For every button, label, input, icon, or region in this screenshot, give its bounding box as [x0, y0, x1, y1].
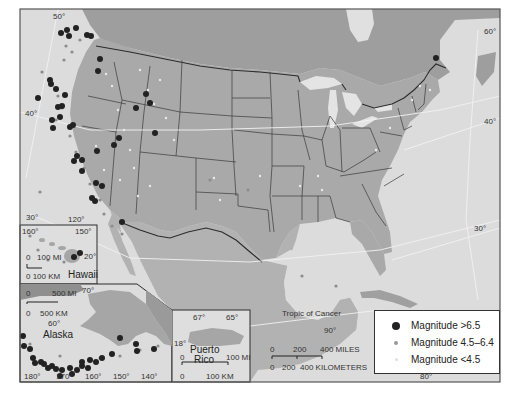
medium-dot-icon [389, 341, 403, 345]
pr-lon-65: 65° [226, 314, 238, 322]
lat-label-40-west: 40° [25, 110, 37, 118]
hawaii-scale-km: 0 100 KM [26, 273, 60, 281]
hawaii-scale-mi: 0 100 MI [26, 254, 62, 262]
hawaii-name: Hawaii [68, 270, 98, 280]
lon-label-80: 80° [420, 373, 432, 381]
alaska-scale-km: 500 KM [40, 310, 68, 318]
scale-km-200: 200 [282, 364, 295, 372]
lat-label-60-east: 60° [484, 28, 496, 36]
scale-miles-200: 200 [293, 346, 306, 354]
legend-label-large: Magnitude >6.5 [411, 320, 480, 331]
pr-lon-67: 67° [193, 314, 205, 322]
hawaii-lon-150: 150° [75, 228, 92, 236]
alaska-lon-150: 150° [113, 373, 130, 381]
scale-miles-400: 400 MILES [320, 346, 360, 354]
pr-scale-km: 100 KM [206, 373, 234, 381]
alaska-lat-70: 70° [82, 287, 94, 295]
pr-scale-mi-0: 0 [180, 354, 184, 362]
alaska-scale-km-0: 0 [26, 310, 30, 318]
alaska-lon-140: 140° [141, 373, 158, 381]
alaska-scale-mi: 500 MI [52, 290, 76, 298]
legend-label-medium: Magnitude 4.5–6.4 [411, 337, 494, 348]
lat-label-30-east: 30° [474, 225, 486, 233]
legend-item-large: Magnitude >6.5 [389, 317, 499, 334]
scale-km-0: 0 [270, 364, 274, 372]
lon-label-90: 90° [324, 327, 336, 335]
lat-label-50: 50° [53, 13, 65, 21]
alaska-lon-170: 170° [56, 373, 73, 381]
hawaii-lon-160: 160° [22, 228, 39, 236]
pr-name-line2: Rico [194, 355, 214, 365]
scale-km-400: 400 KILOMETERS [300, 364, 367, 372]
pr-lat-18: 18° [174, 340, 186, 348]
lat-label-40-east: 40° [484, 118, 496, 126]
legend: Magnitude >6.5 Magnitude 4.5–6.4 Magnitu… [374, 310, 500, 374]
scale-miles-0: 0 [270, 346, 274, 354]
lon-label-120: 120° [68, 216, 85, 224]
alaska-lon-180: 180° [24, 373, 41, 381]
large-dot-icon [389, 322, 403, 330]
alaska-lon-160: 160° [85, 373, 102, 381]
legend-item-medium: Magnitude 4.5–6.4 [389, 334, 499, 351]
alaska-name: Alaska [43, 330, 73, 340]
tropic-of-cancer-label: Tropic of Cancer [282, 310, 341, 318]
lat-label-30-west: 30° [26, 214, 38, 222]
pr-scale-mi: 100 MI [226, 354, 250, 362]
legend-label-small: Magnitude <4.5 [411, 354, 480, 365]
alaska-lat-60: 60° [48, 320, 60, 328]
hawaii-lat-20: 20° [84, 253, 96, 261]
legend-item-small: Magnitude <4.5 [389, 351, 499, 368]
small-dot-icon [389, 358, 403, 361]
pr-scale-km-0: 0 [180, 373, 184, 381]
alaska-scale-mi-0: 0 [26, 290, 30, 298]
